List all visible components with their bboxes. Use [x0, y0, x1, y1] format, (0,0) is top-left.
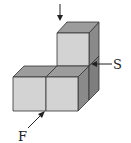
top-cube-front-face	[57, 33, 89, 66]
front-label: F	[18, 129, 27, 143]
front-view-arrow	[28, 111, 45, 128]
top-view-arrow	[57, 4, 63, 21]
side-label: S	[113, 57, 122, 72]
bottom-right-cube-front-face	[46, 77, 78, 111]
bottom-left-cube-front-face	[13, 77, 46, 111]
cube-diagram: S F	[0, 0, 131, 143]
